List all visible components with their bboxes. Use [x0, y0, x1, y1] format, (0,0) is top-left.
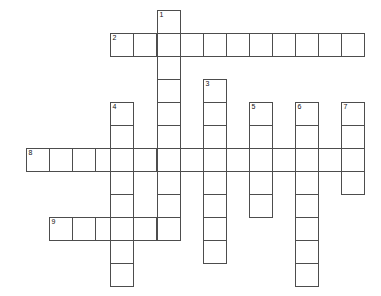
cell-number: 1 — [160, 11, 164, 19]
crossword-cell[interactable] — [203, 217, 227, 241]
crossword-cell[interactable] — [295, 217, 319, 241]
crossword-cell[interactable] — [49, 148, 73, 172]
crossword-cell[interactable]: 1 — [157, 10, 181, 34]
crossword-cell[interactable] — [249, 148, 273, 172]
crossword-cell[interactable] — [157, 79, 181, 103]
crossword-cell[interactable] — [295, 125, 319, 149]
crossword-cell[interactable] — [249, 171, 273, 195]
crossword-cell[interactable]: 5 — [249, 102, 273, 126]
crossword-cell[interactable] — [110, 263, 134, 287]
crossword-cell[interactable]: 8 — [26, 148, 50, 172]
crossword-cell[interactable] — [295, 148, 319, 172]
crossword-cell[interactable] — [318, 33, 342, 57]
crossword-cell[interactable] — [203, 33, 227, 57]
crossword-cell[interactable] — [295, 33, 319, 57]
crossword-grid: 123456789 — [0, 0, 381, 296]
crossword-cell[interactable]: 4 — [110, 102, 134, 126]
cell-number: 7 — [344, 103, 348, 111]
crossword-cell[interactable] — [249, 125, 273, 149]
crossword-cell[interactable]: 9 — [49, 217, 73, 241]
crossword-cell[interactable] — [341, 148, 365, 172]
cell-number: 8 — [29, 149, 33, 157]
crossword-cell[interactable] — [110, 148, 134, 172]
cell-number: 5 — [252, 103, 256, 111]
crossword-cell[interactable] — [203, 125, 227, 149]
crossword-cell[interactable] — [110, 240, 134, 264]
cell-number: 6 — [298, 103, 302, 111]
crossword-cell[interactable] — [72, 148, 96, 172]
crossword-cell[interactable] — [295, 194, 319, 218]
crossword-cell[interactable] — [110, 217, 134, 241]
crossword-cell[interactable] — [180, 33, 204, 57]
crossword-cell[interactable] — [341, 125, 365, 149]
crossword-cell[interactable] — [110, 194, 134, 218]
crossword-cell[interactable]: 7 — [341, 102, 365, 126]
crossword-cell[interactable] — [157, 56, 181, 80]
crossword-cell[interactable] — [72, 217, 96, 241]
crossword-cell[interactable] — [203, 240, 227, 264]
crossword-cell[interactable] — [157, 102, 181, 126]
cell-number: 9 — [52, 218, 56, 226]
crossword-cell[interactable] — [110, 171, 134, 195]
cell-number: 2 — [113, 34, 117, 42]
crossword-cell[interactable] — [272, 148, 296, 172]
crossword-cell[interactable] — [295, 263, 319, 287]
crossword-cell[interactable] — [110, 125, 134, 149]
crossword-cell[interactable] — [203, 171, 227, 195]
crossword-cell[interactable] — [226, 148, 250, 172]
crossword-cell[interactable] — [133, 33, 157, 57]
crossword-cell[interactable] — [157, 171, 181, 195]
crossword-cell[interactable] — [203, 194, 227, 218]
crossword-cell[interactable] — [249, 194, 273, 218]
crossword-cell[interactable] — [157, 125, 181, 149]
crossword-cell[interactable] — [249, 33, 273, 57]
crossword-cell[interactable] — [180, 148, 204, 172]
crossword-cell[interactable]: 6 — [295, 102, 319, 126]
crossword-cell[interactable] — [157, 217, 181, 241]
crossword-cell[interactable] — [272, 33, 296, 57]
crossword-cell[interactable] — [157, 33, 181, 57]
crossword-cell[interactable] — [133, 217, 157, 241]
crossword-cell[interactable] — [203, 148, 227, 172]
crossword-cell[interactable] — [203, 102, 227, 126]
cell-number: 4 — [113, 103, 117, 111]
crossword-cell[interactable]: 2 — [110, 33, 134, 57]
crossword-cell[interactable] — [133, 148, 157, 172]
crossword-cell[interactable] — [295, 171, 319, 195]
crossword-cell[interactable] — [318, 148, 342, 172]
crossword-cell[interactable]: 3 — [203, 79, 227, 103]
crossword-cell[interactable] — [157, 194, 181, 218]
crossword-cell[interactable] — [341, 33, 365, 57]
crossword-cell[interactable] — [157, 148, 181, 172]
cell-number: 3 — [206, 80, 210, 88]
crossword-cell[interactable] — [295, 240, 319, 264]
crossword-cell[interactable] — [226, 33, 250, 57]
crossword-cell[interactable] — [341, 171, 365, 195]
